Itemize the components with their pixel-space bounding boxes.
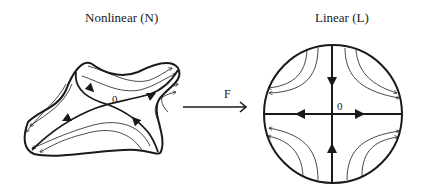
- phase-portrait-diagram: [0, 0, 422, 194]
- linear-domain: [264, 45, 402, 183]
- nonlinear-domain: [25, 63, 180, 156]
- map-arrow: [183, 102, 246, 112]
